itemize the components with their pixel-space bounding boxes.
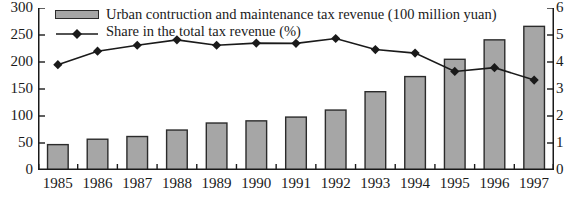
bar-1987 bbox=[127, 137, 148, 170]
line-marker-swatch-icon bbox=[55, 26, 99, 38]
chart-legend: Urban contruction and maintenance tax re… bbox=[55, 6, 525, 40]
x-axis-year-label: 1985 bbox=[38, 172, 78, 197]
right-axis-tick-label: 5 bbox=[556, 27, 564, 42]
bar-1992 bbox=[325, 110, 346, 170]
chart-container: 300250200150100500 6543210 1985198619871… bbox=[0, 0, 577, 197]
line-marker-1987 bbox=[133, 41, 142, 50]
x-axis-year-label: 1986 bbox=[78, 172, 118, 197]
bar-swatch-icon bbox=[55, 10, 99, 19]
legend-item-label: Share in the total tax revenue (%) bbox=[106, 24, 301, 39]
x-axis-year-label: 1996 bbox=[475, 172, 515, 197]
x-axis-year-label: 1988 bbox=[157, 172, 197, 197]
left-axis-tick-label: 0 bbox=[26, 162, 34, 177]
left-axis-tick-label: 250 bbox=[11, 27, 34, 42]
x-axis-year-label: 1992 bbox=[316, 172, 356, 197]
bar-1990 bbox=[246, 121, 267, 170]
bar-1986 bbox=[87, 139, 108, 170]
line-marker-1993 bbox=[371, 45, 380, 54]
right-axis-tick-labels: 6543210 bbox=[556, 0, 577, 197]
bar-1997 bbox=[524, 26, 545, 170]
left-axis-tick-labels: 300250200150100500 bbox=[0, 0, 33, 197]
right-axis-tick-label: 2 bbox=[556, 108, 564, 123]
x-axis-year-label: 1997 bbox=[514, 172, 554, 197]
line-marker-1986 bbox=[93, 47, 102, 56]
legend-item-bar-series: Urban contruction and maintenance tax re… bbox=[55, 6, 525, 23]
left-axis-tick-label: 150 bbox=[11, 81, 34, 96]
right-axis-tick-label: 1 bbox=[556, 135, 564, 150]
x-axis-year-label: 1993 bbox=[356, 172, 396, 197]
x-axis-tick-labels: 1985198619871988198919901991199219931994… bbox=[38, 172, 554, 197]
x-axis-year-label: 1991 bbox=[276, 172, 316, 197]
bar-1989 bbox=[206, 123, 227, 170]
bar-1988 bbox=[167, 130, 188, 170]
line-marker-1991 bbox=[291, 39, 300, 48]
left-axis-tick-label: 200 bbox=[11, 54, 34, 69]
line-marker-1994 bbox=[410, 48, 419, 57]
x-axis-year-label: 1994 bbox=[395, 172, 435, 197]
x-axis-year-label: 1989 bbox=[197, 172, 237, 197]
bar-1996 bbox=[484, 40, 505, 170]
right-axis-tick-label: 6 bbox=[556, 0, 564, 15]
x-axis-year-label: 1990 bbox=[236, 172, 276, 197]
legend-item-line-series: Share in the total tax revenue (%) bbox=[55, 23, 525, 40]
line-marker-1985 bbox=[53, 60, 62, 69]
bar-1991 bbox=[286, 117, 307, 170]
left-axis-tick-label: 300 bbox=[11, 0, 34, 15]
line-marker-1989 bbox=[212, 41, 221, 50]
bar-1985 bbox=[48, 145, 69, 170]
right-axis-tick-label: 4 bbox=[556, 54, 564, 69]
left-axis-tick-label: 50 bbox=[18, 135, 33, 150]
right-axis-tick-label: 0 bbox=[556, 162, 564, 177]
left-axis-tick-label: 100 bbox=[11, 108, 34, 123]
right-axis-tick-label: 3 bbox=[556, 81, 564, 96]
x-axis-year-label: 1987 bbox=[117, 172, 157, 197]
line-series bbox=[53, 34, 539, 85]
bar-1993 bbox=[365, 92, 386, 170]
x-axis-year-label: 1995 bbox=[435, 172, 475, 197]
legend-item-label: Urban contruction and maintenance tax re… bbox=[106, 7, 497, 22]
bar-1994 bbox=[405, 77, 426, 170]
